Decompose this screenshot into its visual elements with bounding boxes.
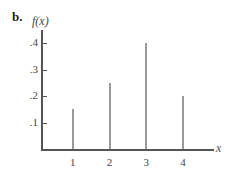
x-tick-label: 2 <box>104 156 116 168</box>
x-tick-label: 3 <box>140 156 152 168</box>
x-tick-label: 4 <box>177 156 189 168</box>
x-axis-label: x <box>216 141 221 156</box>
probability-stem <box>145 43 147 149</box>
y-tick-label: .4 <box>22 36 38 48</box>
probability-stem <box>109 83 111 149</box>
y-axis <box>41 30 43 151</box>
x-tick-label: 1 <box>67 156 79 168</box>
probability-stem <box>182 96 184 149</box>
y-tick-mark <box>41 70 47 71</box>
y-tick-label: .2 <box>22 89 38 101</box>
y-tick-mark <box>41 43 47 44</box>
y-axis-label: f(x) <box>32 14 49 29</box>
x-axis <box>41 149 214 151</box>
y-tick-label: .3 <box>22 63 38 75</box>
y-tick-label: .1 <box>22 116 38 128</box>
y-tick-mark <box>41 123 47 124</box>
y-tick-mark <box>41 96 47 97</box>
probability-stem <box>72 109 74 149</box>
panel-label: b. <box>12 9 22 25</box>
